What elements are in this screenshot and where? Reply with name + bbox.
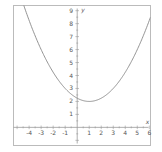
x-tick-label: -3 — [38, 129, 44, 136]
x-tick-label: 5 — [135, 129, 139, 136]
y-tick-label: 3 — [69, 84, 73, 91]
x-tick-label: -4 — [26, 129, 32, 136]
y-tick-label: 8 — [69, 20, 73, 27]
x-tick-label: 3 — [111, 129, 115, 136]
x-tick-label: 2 — [99, 129, 103, 136]
y-tick-label: 4 — [69, 72, 73, 79]
y-axis-label: y — [80, 6, 85, 14]
x-tick-label: -2 — [50, 129, 56, 136]
y-tick-label: 5 — [69, 59, 73, 66]
y-tick-label: 1 — [69, 110, 73, 117]
y-tick-label: 7 — [69, 33, 73, 40]
y-tick-label: 6 — [69, 46, 73, 53]
parabola-chart: -4-3-2-1123456123456789 x y — [0, 0, 162, 152]
plot-frame — [14, 6, 151, 146]
x-tick-label: 1 — [87, 129, 91, 136]
x-axis-label: x — [145, 118, 150, 125]
x-tick-label: 6 — [147, 129, 151, 136]
y-tick-label: 2 — [69, 97, 73, 104]
y-tick-label: 9 — [69, 7, 73, 14]
x-tick-label: 4 — [123, 129, 127, 136]
x-tick-label: -1 — [62, 129, 68, 136]
